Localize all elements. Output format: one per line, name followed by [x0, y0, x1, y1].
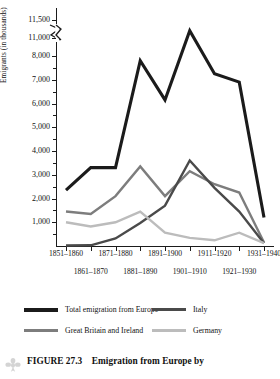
- x-axis-label: 1911–1920: [198, 250, 232, 258]
- x-tick: [91, 246, 92, 251]
- figure-caption-row: FIGURE 27.3 Emigration from Europe by: [4, 356, 280, 373]
- x-tick: [190, 246, 191, 251]
- y-tick-label: 3,000: [32, 171, 50, 179]
- y-axis-title: Emigrants (in thousands): [0, 0, 8, 83]
- figure-number: FIGURE 27.3: [27, 356, 82, 366]
- series-lines: [56, 8, 274, 246]
- legend-label: Germany: [193, 327, 222, 335]
- y-tick-label: 11,000: [28, 34, 50, 42]
- series-line: [66, 212, 264, 244]
- y-tick-label: 2,000: [32, 195, 50, 203]
- y-tick-label: 4,000: [32, 147, 50, 155]
- x-axis-label: 1931–1940: [247, 250, 280, 258]
- x-tick: [140, 246, 141, 251]
- x-axis-label: 1921–1930: [222, 268, 256, 276]
- x-tick: [239, 246, 240, 251]
- legend-label: Italy: [193, 306, 207, 314]
- figure-caption: FIGURE 27.3 Emigration from Europe by: [27, 356, 204, 367]
- x-axis-label: 1871–1880: [98, 250, 132, 258]
- y-tick-label: 8,000: [32, 52, 50, 60]
- x-axis-label: 1851–1860: [49, 250, 83, 258]
- y-tick-label: 5,000: [32, 123, 50, 131]
- figure-title: Emigration from Europe by: [92, 356, 204, 366]
- x-axis-label: 1901–1910: [173, 268, 207, 276]
- x-axis-label: 1881–1890: [123, 268, 157, 276]
- legend-item: Italy: [152, 306, 262, 314]
- legend-swatch: [152, 329, 186, 332]
- legend-label: Total emigration from Europe: [65, 306, 158, 314]
- chart-legend: Total emigration from EuropeItalyGreat B…: [24, 306, 274, 335]
- y-tick-label: 6,000: [32, 100, 50, 108]
- series-line: [66, 31, 264, 218]
- y-tick-label: 1,000: [32, 218, 50, 226]
- legend-swatch: [24, 329, 58, 332]
- y-tick-label: 11,500: [28, 16, 50, 24]
- x-axis-label: 1891–1900: [148, 250, 182, 258]
- legend-item: Total emigration from Europe: [24, 306, 152, 314]
- y-tick-label: 7,000: [32, 76, 50, 84]
- fleuron-ornament-icon: [4, 357, 22, 373]
- legend-item: Great Britain and Ireland: [24, 327, 152, 335]
- x-axis-label: 1861–1870: [74, 268, 108, 276]
- legend-label: Great Britain and Ireland: [65, 327, 143, 335]
- legend-swatch: [152, 308, 186, 311]
- legend-swatch: [24, 308, 58, 312]
- emigration-line-chart: Emigrants (in thousands) 1,0002,0003,000…: [0, 0, 280, 300]
- plot-area: 1,0002,0003,0004,0005,0006,0007,0008,000…: [56, 8, 274, 246]
- legend-item: Germany: [152, 327, 262, 335]
